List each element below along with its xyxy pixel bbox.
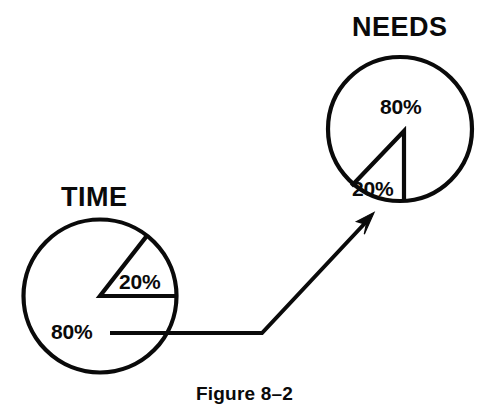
- needs-pie-outline: [328, 57, 472, 201]
- time-slice-label-80: 80%: [51, 321, 92, 342]
- needs-slice-label-20: 20%: [352, 178, 393, 199]
- figure-caption: Figure 8–2: [196, 384, 293, 403]
- figure-8-2: TIME 20% 80% NEEDS 80% 20% Figure 8–2: [0, 0, 504, 416]
- needs-slice-label-80: 80%: [380, 96, 421, 117]
- time-pie-chart: [24, 220, 177, 373]
- needs-chart-title: NEEDS: [352, 14, 448, 41]
- time-slice-label-20: 20%: [119, 271, 160, 292]
- time-chart-title: TIME: [61, 184, 128, 211]
- needs-pie-chart: [328, 57, 472, 201]
